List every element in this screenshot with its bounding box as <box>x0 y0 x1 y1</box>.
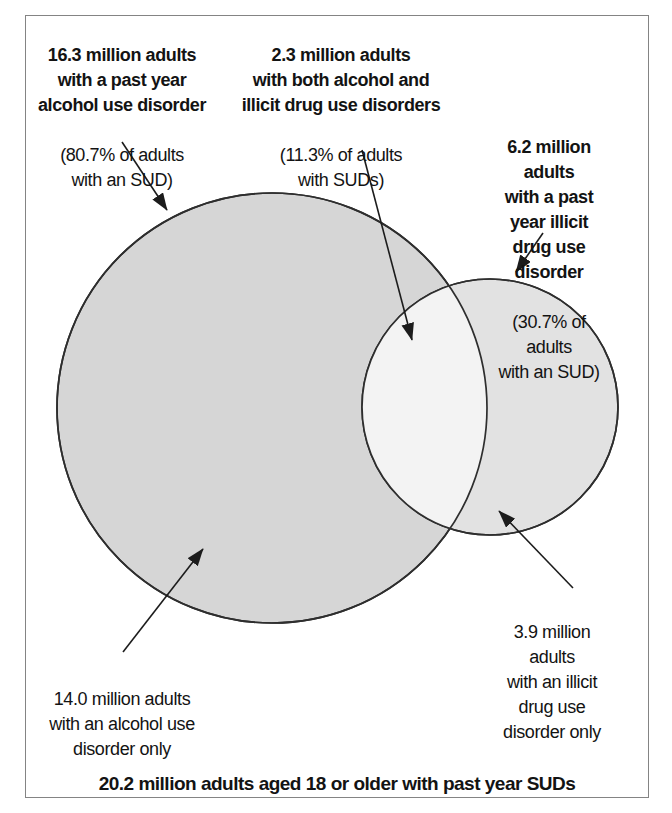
label-alcohol-only-main: 14.0 million adults with an alcohol use … <box>49 687 195 762</box>
label-alcohol-total-sub: (80.7% of adults with an SUD) <box>38 143 206 193</box>
label-alcohol-total-main: 16.3 million adults with a past year alc… <box>38 43 206 118</box>
label-drug-only-main: 3.9 million adults with an illicit drug … <box>492 620 612 745</box>
label-drug-total: 6.2 million adults with a past year illi… <box>488 110 611 410</box>
label-both: 2.3 million adults with both alcohol and… <box>242 18 441 218</box>
label-alcohol-only: 14.0 million adults with an alcohol use … <box>49 662 195 787</box>
label-drug-total-sub: (30.7% of adults with an SUD) <box>488 310 611 385</box>
figure-caption: 20.2 million adults aged 18 or older wit… <box>25 773 649 795</box>
label-alcohol-total: 16.3 million adults with a past year alc… <box>38 18 206 218</box>
label-both-main: 2.3 million adults with both alcohol and… <box>242 43 441 118</box>
label-drug-only: 3.9 million adults with an illicit drug … <box>492 595 612 770</box>
label-both-sub: (11.3% of adults with SUDs) <box>242 143 441 193</box>
label-drug-total-main: 6.2 million adults with a past year illi… <box>488 135 611 285</box>
figure-canvas: 16.3 million adults with a past year alc… <box>0 0 672 813</box>
